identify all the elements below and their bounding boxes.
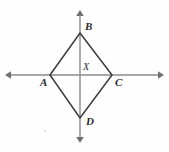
vertex-label-d: D (86, 116, 94, 127)
vertical-axis-bottom-arrowhead (76, 137, 84, 143)
center-point-label-x: X (83, 61, 89, 72)
horizontal-axis-right-arrowhead (158, 71, 164, 79)
vertex-label-a: A (40, 77, 47, 88)
horizontal-axis-left-arrowhead (5, 71, 11, 79)
vertical-axis-top-arrowhead (76, 10, 84, 16)
geometry-figure: B A C D X (0, 0, 169, 152)
vertex-label-b: B (85, 21, 92, 32)
vertex-label-c: C (115, 77, 122, 88)
scan-speck (44, 130, 46, 132)
